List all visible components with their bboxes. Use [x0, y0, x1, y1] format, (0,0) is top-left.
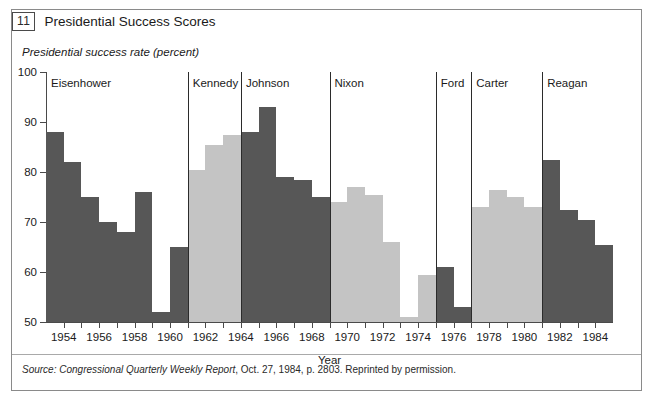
x-tick [223, 322, 224, 328]
x-tick [241, 322, 242, 328]
y-tick [40, 122, 46, 123]
administration-divider [188, 72, 189, 322]
bar [135, 192, 153, 322]
x-tick-label: 1976 [441, 331, 467, 343]
x-tick [418, 322, 419, 328]
bar [454, 307, 472, 322]
x-tick-label: 1958 [122, 331, 148, 343]
y-tick-label: 100 [18, 66, 37, 78]
bar [152, 312, 170, 322]
administration-divider [542, 72, 543, 322]
bar [170, 247, 188, 322]
y-tick [40, 72, 46, 73]
y-tick-label: 80 [24, 166, 37, 178]
bar [223, 135, 241, 323]
administration-label-ford: Ford [441, 77, 465, 89]
x-tick-label: 1984 [582, 331, 608, 343]
x-tick [383, 322, 384, 328]
x-tick-label: 1982 [547, 331, 573, 343]
figure-number: 11 [12, 12, 35, 31]
source-rest: , Oct. 27, 1984, p. 2803. Reprinted by p… [235, 364, 456, 375]
x-tick [578, 322, 579, 328]
administration-label-kennedy: Kennedy [193, 77, 238, 89]
x-tick [347, 322, 348, 328]
x-tick [471, 322, 472, 328]
source-divider [12, 354, 641, 355]
x-tick [524, 322, 525, 328]
x-tick [507, 322, 508, 328]
x-tick [330, 322, 331, 328]
x-tick-label: 1954 [51, 331, 77, 343]
figure-header: 11 Presidential Success Scores [12, 12, 216, 31]
x-tick [152, 322, 153, 328]
x-tick-label: 1956 [86, 331, 112, 343]
x-tick [64, 322, 65, 328]
x-tick [259, 322, 260, 328]
bar [578, 220, 596, 323]
bar [312, 197, 330, 322]
bar [524, 207, 542, 322]
y-tick [40, 222, 46, 223]
x-tick [454, 322, 455, 328]
x-tick-label: 1968 [299, 331, 325, 343]
bar [542, 160, 560, 323]
bar [259, 107, 277, 322]
bar [188, 170, 206, 323]
chart-plot-area: EisenhowerKennedyJohnsonNixonFordCarterR… [46, 72, 613, 322]
y-tick [40, 172, 46, 173]
bar [383, 242, 401, 322]
figure-page: 11 Presidential Success Scores President… [0, 0, 653, 400]
x-tick-label: 1964 [228, 331, 254, 343]
x-tick [542, 322, 543, 328]
bar [294, 180, 312, 323]
bar [46, 132, 64, 322]
administration-label-johnson: Johnson [246, 77, 289, 89]
bar [560, 210, 578, 323]
bar [347, 187, 365, 322]
x-tick-label: 1980 [512, 331, 538, 343]
x-tick [294, 322, 295, 328]
bar [471, 207, 489, 322]
x-tick-label: 1972 [370, 331, 396, 343]
source-prefix: Source: [22, 364, 56, 375]
x-tick [489, 322, 490, 328]
x-tick-label: 1970 [334, 331, 360, 343]
source-note: Source: Congressional Quarterly Weekly R… [22, 364, 456, 375]
bar [330, 202, 348, 322]
y-axis-title: Presidential success rate (percent) [22, 46, 199, 58]
administration-divider [241, 72, 242, 322]
x-tick [400, 322, 401, 328]
figure-title: Presidential Success Scores [44, 14, 215, 29]
x-tick-label: 1960 [157, 331, 183, 343]
bar [205, 145, 223, 323]
x-tick-label: 1978 [476, 331, 502, 343]
bar [507, 197, 525, 322]
y-tick [40, 272, 46, 273]
x-tick [81, 322, 82, 328]
x-tick [170, 322, 171, 328]
bar [418, 275, 436, 323]
bar [117, 232, 135, 322]
x-tick [312, 322, 313, 328]
x-tick [595, 322, 596, 328]
x-tick [99, 322, 100, 328]
bar [400, 317, 418, 322]
x-tick [188, 322, 189, 328]
bar [436, 267, 454, 322]
bar [276, 177, 294, 322]
bar [81, 197, 99, 322]
administration-divider [330, 72, 331, 322]
bar [241, 132, 259, 322]
administration-label-carter: Carter [476, 77, 508, 89]
bar [595, 245, 613, 323]
x-tick-label: 1974 [405, 331, 431, 343]
x-tick [205, 322, 206, 328]
bar [99, 222, 117, 322]
y-tick-label: 60 [24, 266, 37, 278]
bar [64, 162, 82, 322]
administration-label-eisenhower: Eisenhower [51, 77, 111, 89]
administration-divider [436, 72, 437, 322]
administration-divider [471, 72, 472, 322]
administration-label-reagan: Reagan [547, 77, 587, 89]
source-publication: Congressional Quarterly Weekly Report [59, 364, 235, 375]
